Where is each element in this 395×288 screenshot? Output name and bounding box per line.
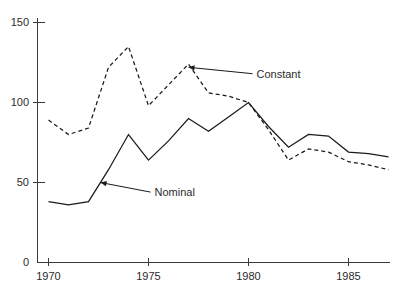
y-tick-label-50: 50 [17,176,29,188]
y-tick-label-100: 100 [11,96,29,108]
y-axis-tick-labels: 150 100 50 0 [11,16,29,268]
x-tick-label-1980: 1980 [236,270,260,282]
annotation-arrow-constant [189,67,253,73]
x-tick-label-1975: 1975 [136,270,160,282]
x-tick-label-1985: 1985 [336,270,360,282]
x-axis-tick-labels: 1970 1975 1980 1985 [36,270,360,282]
y-tick-label-0: 0 [23,256,29,268]
y-tick-marks [33,23,45,183]
y-tick-label-150: 150 [11,16,29,28]
chart-figure: 150 100 50 0 1970 1975 1980 1985 Constan… [0,0,395,288]
series-line-nominal [49,103,389,205]
axes-group [37,18,390,263]
x-tick-label-1970: 1970 [36,270,60,282]
series-label-constant: Constant [257,68,301,80]
chart-canvas: 150 100 50 0 1970 1975 1980 1985 Constan… [0,0,395,288]
series-line-constant [49,47,389,170]
annotation-arrow-nominal [101,183,151,193]
series-label-nominal: Nominal [155,186,195,198]
